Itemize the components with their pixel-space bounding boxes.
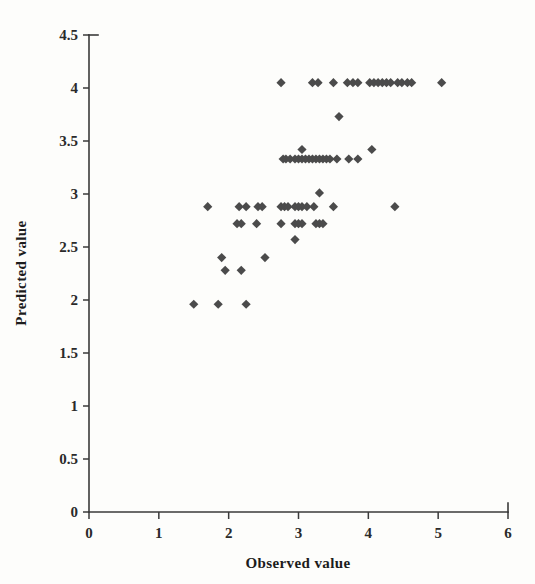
data-point [329, 202, 338, 211]
y-tick-label: 2.5 [59, 239, 78, 255]
data-point [390, 202, 399, 211]
y-tick-label: 4.5 [59, 27, 78, 43]
data-point [332, 154, 341, 163]
y-tick-label: 0.5 [59, 451, 78, 467]
data-point [353, 78, 362, 87]
data-markers [189, 78, 446, 309]
data-point [203, 202, 212, 211]
y-axis: 00.511.522.533.544.5 [59, 27, 89, 520]
y-tick-label: 0 [71, 504, 79, 520]
x-axis: 0123456 [85, 35, 512, 541]
data-point [313, 78, 322, 87]
data-point [290, 235, 299, 244]
data-point [309, 202, 318, 211]
data-point [367, 145, 376, 154]
data-point [217, 253, 226, 262]
y-tick-label: 1 [71, 398, 79, 414]
x-tick-label: 0 [85, 525, 93, 541]
data-point [344, 154, 353, 163]
data-point [315, 188, 324, 197]
data-point [276, 219, 285, 228]
y-tick-label: 1.5 [59, 345, 78, 361]
y-tick-label: 3.5 [59, 133, 78, 149]
x-tick-label: 4 [365, 525, 373, 541]
y-tick-label: 3 [71, 186, 79, 202]
data-point [214, 300, 223, 309]
data-point [329, 78, 338, 87]
x-axis-title: Observed value [245, 555, 350, 571]
plot-area: 00.511.522.533.544.5 0123456 Observed va… [0, 0, 535, 584]
data-point [252, 219, 261, 228]
data-point [260, 253, 269, 262]
data-point [297, 145, 306, 154]
x-tick-label: 3 [295, 525, 303, 541]
y-tick-label: 4 [71, 80, 79, 96]
data-point [189, 300, 198, 309]
data-point [242, 300, 251, 309]
data-point [437, 78, 446, 87]
data-point [221, 266, 230, 275]
y-tick-label: 2 [71, 292, 79, 308]
data-point [237, 266, 246, 275]
x-tick-label: 6 [504, 525, 512, 541]
data-point [242, 202, 251, 211]
scatter-chart: 00.511.522.533.544.5 0123456 Observed va… [0, 0, 535, 584]
data-point [334, 112, 343, 121]
y-axis-title: Predicted value [13, 220, 29, 325]
x-tick-label: 2 [225, 525, 233, 541]
data-point [276, 78, 285, 87]
x-tick-label: 5 [434, 525, 442, 541]
data-point [353, 154, 362, 163]
x-tick-label: 1 [155, 525, 163, 541]
